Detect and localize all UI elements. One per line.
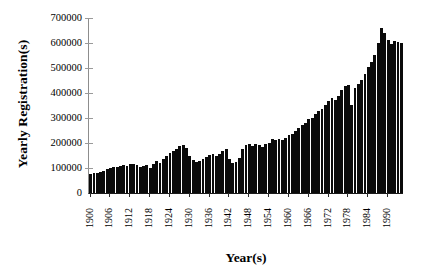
y-axis-title-text: Yearly Registration(s) (15, 40, 31, 169)
x-axis-tick-label-text: 1948 (243, 208, 253, 228)
y-axis-tick-label: 0 (34, 188, 82, 198)
x-axis-tick-label: 1936 (204, 198, 214, 244)
x-axis-tick-labels: 1900190619121918192419301936194219481954… (88, 198, 404, 246)
plot-area (88, 18, 403, 194)
y-axis-tick-mark (85, 68, 93, 69)
y-axis-title: Yearly Registration(s) (12, 18, 34, 190)
y-axis-tick-label: 700000 (34, 13, 82, 23)
x-axis-tick-mark (367, 193, 368, 197)
x-axis-tick-label: 1942 (223, 198, 233, 244)
y-axis-tick-label: 400000 (34, 88, 82, 98)
x-axis-tick-label-text: 1936 (204, 208, 214, 228)
x-axis-tick-label: 1912 (124, 198, 134, 244)
x-axis-tick-label: 1948 (243, 198, 253, 244)
x-axis-tick-mark (248, 193, 249, 197)
x-axis-tick-label: 1924 (164, 198, 174, 244)
x-axis-tick-mark (109, 193, 110, 197)
x-axis-tick-label: 1930 (184, 198, 194, 244)
x-axis-tick-mark (308, 193, 309, 197)
x-axis-tick-mark (169, 193, 170, 197)
x-axis-tick-label-text: 1924 (164, 208, 174, 228)
x-axis-tick-mark (387, 193, 388, 197)
x-axis-tick-mark (228, 193, 229, 197)
x-axis-tick-mark (129, 193, 130, 197)
x-axis-tick-label-text: 1918 (144, 208, 154, 228)
chart-container: Yearly Registration(s) 01000002000003000… (0, 0, 428, 276)
y-axis-tick-mark (85, 118, 93, 119)
x-axis-tick-label: 1966 (303, 198, 313, 244)
x-axis-tick-mark (347, 193, 348, 197)
x-axis-tick-label: 1984 (362, 198, 372, 244)
y-axis-tick-mark (85, 168, 93, 169)
x-axis-tick-label-text: 1942 (223, 208, 233, 228)
y-axis-tick-label: 300000 (34, 113, 82, 123)
x-axis-tick-label-text: 1978 (342, 208, 352, 228)
y-axis-tick-mark (85, 143, 93, 144)
x-axis-tick-label: 1918 (144, 198, 154, 244)
x-axis-tick-label-text: 1966 (303, 208, 313, 228)
y-axis-tick-label: 200000 (34, 138, 82, 148)
x-axis-tick-mark (209, 193, 210, 197)
x-axis-tick-label-text: 1930 (184, 208, 194, 228)
x-axis-tick-label-text: 1906 (104, 208, 114, 228)
x-axis-tick-label-text: 1990 (382, 208, 392, 228)
y-axis-tick-labels: 0100000200000300000400000500000600000700… (34, 10, 82, 200)
x-axis-tick-mark (268, 193, 269, 197)
x-axis-tick-label: 1954 (263, 198, 273, 244)
x-axis-tick-mark (328, 193, 329, 197)
bar (400, 43, 403, 193)
x-axis-tick-label: 1990 (382, 198, 392, 244)
x-axis-title: Year(s) (88, 250, 404, 266)
x-axis-tick-label: 1900 (85, 198, 95, 244)
y-axis-tick-label: 600000 (34, 38, 82, 48)
x-axis-tick-label: 1960 (283, 198, 293, 244)
x-axis-tick-label-text: 1912 (124, 208, 134, 228)
x-axis-tick-label: 1978 (342, 198, 352, 244)
x-axis-tick-mark (189, 193, 190, 197)
y-axis-tick-mark (85, 18, 93, 19)
x-axis-tick-mark (288, 193, 289, 197)
x-axis-tick-mark (149, 193, 150, 197)
x-axis-tick-label-text: 1900 (85, 208, 95, 228)
x-axis-tick-label-text: 1954 (263, 208, 273, 228)
x-axis-tick-label: 1906 (104, 198, 114, 244)
x-axis-tick-label: 1972 (323, 198, 333, 244)
bar-series (89, 18, 403, 193)
y-axis-tick-label: 500000 (34, 63, 82, 73)
x-axis-tick-label-text: 1960 (283, 208, 293, 228)
y-axis-tick-mark (85, 43, 93, 44)
y-axis-tick-label: 100000 (34, 163, 82, 173)
x-axis-tick-label-text: 1972 (323, 208, 333, 228)
x-axis-tick-mark (90, 193, 91, 197)
x-axis-tick-label-text: 1984 (362, 208, 372, 228)
y-axis-tick-mark (85, 93, 93, 94)
